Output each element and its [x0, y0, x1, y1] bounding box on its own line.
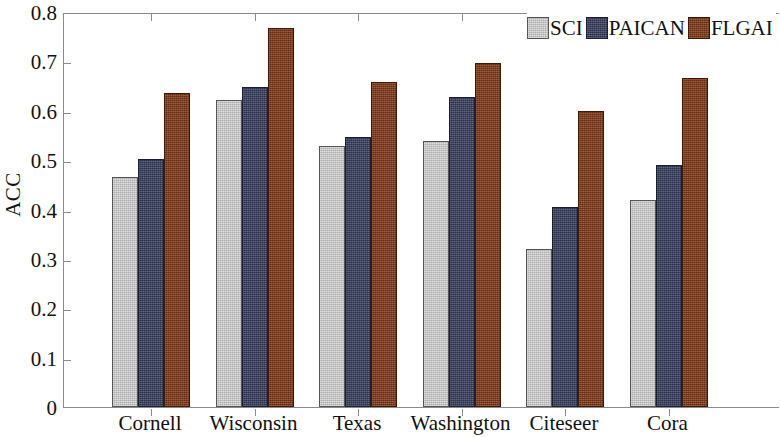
bar [656, 165, 682, 407]
bar [268, 28, 294, 407]
legend-swatch-sci [527, 17, 549, 39]
bar-chart-figure: ACC 00.10.20.30.40.50.60.70.8 SCIPAICANF… [0, 0, 780, 437]
legend-entry: PAICAN [586, 13, 688, 43]
y-axis-tick-label: 0.8 [0, 3, 57, 24]
legend-entry: SCI [527, 13, 586, 43]
legend-swatch-paican [586, 17, 608, 39]
y-axis-tick-label: 0.1 [0, 349, 57, 370]
legend-entry: FLGAI [688, 13, 776, 43]
y-axis-tick-mark [64, 113, 71, 114]
x-axis-tick-mark-top [151, 14, 152, 21]
bar [423, 141, 449, 407]
y-axis-tick-mark [64, 212, 71, 213]
x-axis-tick-mark-top [255, 14, 256, 21]
y-axis-tick-mark [64, 63, 71, 64]
y-axis-tick-label: 0.5 [0, 151, 57, 172]
bar [138, 159, 164, 407]
bar [242, 87, 268, 407]
bar [682, 78, 708, 407]
y-axis-tick-label: 0.3 [0, 250, 57, 271]
x-axis-tick-label: Cora [588, 411, 748, 436]
y-axis-tick-mark [64, 261, 71, 262]
bar [164, 93, 190, 407]
x-axis-tick-mark-top [358, 14, 359, 21]
plot-area: 00.10.20.30.40.50.60.70.8 [63, 13, 779, 408]
legend-label: SCI [550, 16, 583, 41]
y-axis-tick-label: 0.2 [0, 299, 57, 320]
bar [630, 200, 656, 407]
y-axis-tick-mark [64, 310, 71, 311]
x-axis-tick-mark-top [462, 14, 463, 21]
y-axis-tick-label: 0.6 [0, 102, 57, 123]
bar [526, 249, 552, 407]
y-axis-tick-mark [64, 360, 71, 361]
bar [216, 100, 242, 407]
legend-label: PAICAN [609, 16, 685, 41]
bar [449, 97, 475, 407]
y-axis-tick-mark [64, 162, 71, 163]
y-axis-tick-label: 0 [0, 398, 57, 419]
legend-swatch-flgai [688, 17, 710, 39]
bar [371, 82, 397, 407]
bar [112, 177, 138, 407]
y-axis-tick-label: 0.4 [0, 201, 57, 222]
bar [552, 207, 578, 407]
bar [475, 63, 501, 407]
legend-label: FLGAI [711, 16, 773, 41]
chart-legend: SCIPAICANFLGAI [527, 13, 776, 43]
bar [578, 111, 604, 407]
bar [319, 146, 345, 407]
bar [345, 137, 371, 407]
y-axis-tick-label: 0.7 [0, 52, 57, 73]
